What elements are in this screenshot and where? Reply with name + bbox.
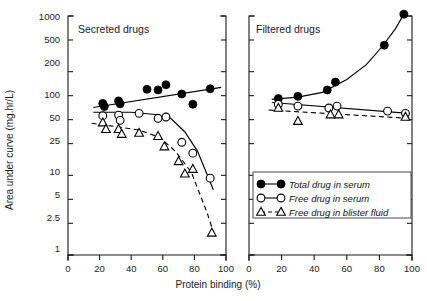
x-tick-label: 100	[218, 263, 234, 274]
x-tick-label: 80	[374, 263, 385, 274]
legend-label: Total drug in serum	[289, 179, 370, 190]
data-point-free-serum	[325, 104, 333, 112]
data-point-free-serum	[178, 138, 186, 146]
figure-root: Area under curve (mg.hr/L) Protein bindi…	[0, 0, 427, 301]
data-point-total-serum	[162, 81, 170, 89]
x-tick-label: 0	[246, 263, 251, 274]
y-tick-label: 1000	[39, 11, 60, 22]
x-tick-label: 60	[158, 263, 169, 274]
x-tick-label: 40	[309, 263, 320, 274]
legend-label: Free drug in serum	[289, 193, 369, 204]
x-tick-label: 80	[189, 263, 200, 274]
x-tick-label: 40	[126, 263, 137, 274]
y-tick-label: 10	[49, 166, 60, 177]
y-tick-label: 25	[49, 135, 60, 146]
data-point-total-serum	[116, 100, 124, 108]
y-tick-label: 200	[44, 57, 60, 68]
data-point-total-serum	[189, 100, 197, 108]
data-point-free-serum	[277, 194, 285, 202]
x-tick-label: 0	[65, 263, 70, 274]
data-point-total-serum	[277, 180, 285, 188]
data-point-total-serum	[380, 41, 388, 49]
legend-label: Free drug in blister fluid	[289, 207, 389, 218]
data-point-total-serum	[143, 85, 151, 93]
data-point-free-serum	[116, 116, 124, 124]
data-point-total-serum	[400, 10, 408, 18]
x-tick-label: 100	[404, 263, 420, 274]
data-point-free-serum	[294, 102, 302, 110]
x-tick-label: 20	[94, 263, 105, 274]
panel-title-right: Filtered drugs	[256, 23, 320, 35]
y-tick-label: 100	[44, 89, 60, 100]
data-point-total-serum	[100, 103, 108, 111]
data-point-total-serum	[323, 86, 331, 94]
data-point-free-serum	[154, 114, 162, 122]
data-point-total-serum	[294, 92, 302, 100]
data-point-free-serum	[384, 107, 392, 115]
data-point-total-serum	[178, 90, 186, 98]
data-point-free-serum	[189, 149, 197, 157]
panel-title-left: Secreted drugs	[78, 23, 149, 35]
y-tick-label: 2.5	[47, 212, 60, 223]
scientific-chart: Area under curve (mg.hr/L) Protein bindi…	[0, 0, 427, 301]
data-point-free-serum	[206, 174, 214, 182]
y-tick-label: 5	[55, 189, 60, 200]
chart-background	[0, 0, 427, 301]
x-tick-label: 60	[342, 263, 353, 274]
y-tick-label: 1	[55, 243, 60, 254]
x-axis-title: Protein binding (%)	[175, 279, 260, 290]
data-point-total-serum	[206, 85, 214, 93]
data-point-free-serum	[257, 194, 265, 202]
data-point-total-serum	[257, 180, 265, 188]
data-point-free-serum	[333, 102, 341, 110]
data-point-free-serum	[135, 109, 143, 117]
data-point-total-serum	[331, 78, 339, 86]
data-point-total-serum	[154, 86, 162, 94]
y-axis-title: Area under curve (mg.hr/L)	[4, 90, 15, 210]
y-tick-label: 500	[44, 34, 60, 45]
data-point-free-serum	[162, 113, 170, 121]
y-tick-label: 50	[49, 112, 60, 123]
x-tick-label: 20	[276, 263, 287, 274]
